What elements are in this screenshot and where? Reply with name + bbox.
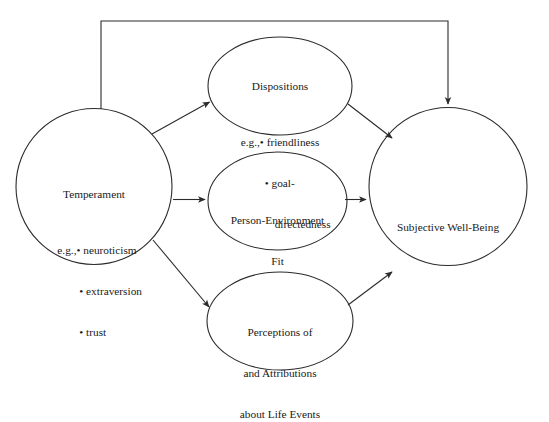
perceptions-line-3: about Life Events — [207, 408, 353, 422]
edge-temperament-to-dispositions[interactable] — [152, 102, 210, 134]
node-person-environment-fit-shape[interactable] — [208, 152, 347, 250]
edge-temperament-to-perceptions[interactable] — [153, 240, 209, 307]
node-dispositions-shape[interactable] — [208, 37, 352, 135]
node-subjective-well-being-shape[interactable] — [369, 108, 527, 266]
node-temperament-shape[interactable] — [16, 109, 172, 265]
node-perceptions-attributions-shape[interactable] — [207, 272, 353, 370]
edge-perceptions-to-subjective-well-being[interactable] — [348, 272, 392, 305]
edge-dispositions-to-subjective-well-being[interactable] — [348, 104, 392, 138]
